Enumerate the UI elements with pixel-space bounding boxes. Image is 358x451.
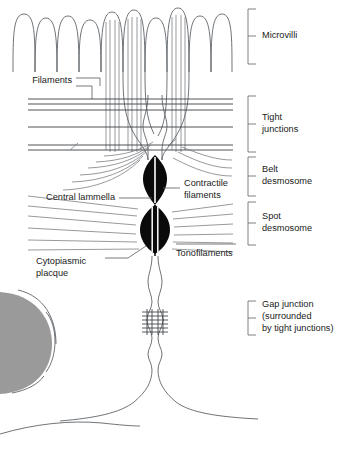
bracket-label-gap-junction-line1: Gap junction [262,299,314,309]
belt-desmosome-structure [143,155,167,205]
leader-cytoplasmic-placque [105,246,146,258]
basal-membrane-curve [0,422,140,434]
leader-label-contractile-filaments-line2: filaments [184,190,221,200]
gap-junction-structure [142,309,168,335]
leader-label-central-lammella: Central lammella [46,192,116,202]
leader-label-tonofilaments: Tonofilaments [176,248,233,258]
bracket-gap-junction [248,301,256,335]
bracket-tight-junctions [248,96,256,152]
leader-label-cytoplasmic-placque-line1: Cytopiasmic [36,256,86,266]
leader-label-filaments: Filaments [32,75,72,85]
bracket-label-spot-desmosome-line1: Spot [262,211,281,221]
bracket-label-spot-desmosome-line2: desmosome [262,223,312,233]
nucleus-body [0,292,52,394]
tight-junction-kinks [70,139,176,150]
nucleus-group [0,290,56,394]
leader-filaments [76,78,100,99]
bracket-label-tight-junctions-line1: Tight [262,112,283,122]
lateral-cell-membranes [123,72,189,160]
bracket-label-gap-junction-line2: (surrounded [262,311,312,321]
bracket-label-microvilli: Microvilli [262,30,297,40]
lower-intercellular-cleft [60,256,258,421]
lower-cleft-left [60,256,152,421]
microvilli-group [13,8,232,72]
bracket-spot-desmosome [248,202,256,245]
lower-cleft-right [158,256,258,419]
bracket-label-gap-junction-line3: by tight junctions) [262,323,334,333]
diagram-canvas: Microvilli Tight junctions Belt desmosom… [0,0,358,451]
bracket-belt-desmosome [248,157,256,196]
bracket-label-belt-desmosome-line2: desmosome [262,176,312,186]
microvilli-outline [13,8,232,72]
bracket-microvilli [248,9,256,64]
membrane-right [145,72,154,134]
leader-label-cytoplasmic-placque-line2: placque [36,268,68,278]
basal-membrane [0,422,140,434]
bracket-label-belt-desmosome-line1: Belt [262,164,278,174]
junction-diagram-svg: Microvilli Tight junctions Belt desmosom… [0,0,358,451]
leader-label-contractile-filaments-line1: Contractile [184,178,228,188]
bracket-label-tight-junctions-line2: junctions [261,124,299,134]
tight-junction-lines [28,99,233,150]
spot-desmosome-structure [140,205,170,256]
